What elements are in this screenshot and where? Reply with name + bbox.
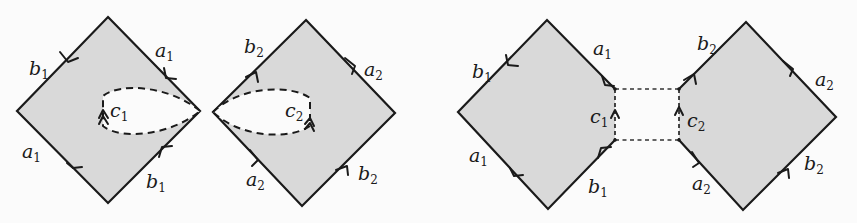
vertex-dot [613, 87, 617, 91]
label-b1-bottom-right: b1 [146, 170, 166, 195]
arrow-icon [159, 146, 172, 157]
label-a2-top-right: a2 [815, 68, 834, 93]
vertex-dot [677, 87, 681, 91]
label-b2-top-left: b2 [244, 35, 264, 60]
label-b1-top-left: b1 [29, 57, 49, 82]
label-b1-top-left: b1 [472, 60, 492, 85]
polygon-genus1-square-1 [17, 17, 200, 203]
surface-gluing-diagram: b1 a1 c1 a1 b1 b2 a2 c2 a2 b2 b1 a1 c1 a… [0, 0, 857, 223]
label-a2-bottom-left: a2 [692, 172, 711, 197]
arrow-icon [164, 68, 176, 79]
label-a1-top-right: a1 [155, 39, 174, 64]
label-a2-top-right: a2 [364, 58, 383, 83]
label-a1-bottom-left: a1 [22, 140, 41, 165]
label-a1-top-right: a1 [593, 37, 612, 62]
label-a1-bottom-left: a1 [469, 144, 488, 169]
label-b2-top-left: b2 [697, 32, 717, 57]
label-a2-bottom-left: a2 [246, 168, 265, 193]
vertex-dot [677, 138, 681, 142]
vertex-dot [613, 138, 617, 142]
label-b2-bottom-right: b2 [358, 162, 378, 187]
label-b1-bottom-right: b1 [588, 175, 608, 200]
label-b2-bottom-right: b2 [804, 152, 824, 177]
